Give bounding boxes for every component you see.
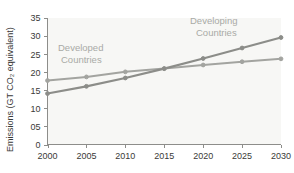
y-tick-label: 30 (30, 31, 40, 41)
data-point-marker (46, 79, 50, 83)
data-point-marker (162, 67, 166, 71)
annotation-developing-line1: Developing (190, 15, 238, 26)
plot-area-background (47, 18, 281, 144)
y-tick-label: 15 (30, 86, 40, 96)
x-tick-label: 2030 (271, 151, 291, 161)
data-point-marker (240, 46, 244, 50)
x-axis-ticks (49, 145, 282, 149)
x-tick-label: 2005 (76, 151, 96, 161)
x-tick-label: 2010 (115, 151, 135, 161)
data-point-marker (240, 60, 244, 64)
y-tick-label: 35 (30, 13, 40, 23)
data-point-marker (279, 36, 283, 40)
emissions-line-chart: Emissions (GT CO₂ equivalent) 0051015202… (0, 0, 294, 173)
annotation-developed-line1: Developed (58, 42, 103, 53)
chart-canvas: Emissions (GT CO₂ equivalent) 0051015202… (0, 0, 294, 173)
y-tick-label: 05 (30, 122, 40, 132)
y-axis-title: Emissions (GT CO₂ equivalent) (5, 27, 15, 152)
data-point-marker (201, 63, 205, 67)
x-tick-label: 2015 (154, 151, 174, 161)
data-point-marker (279, 57, 283, 61)
x-tick-label: 2020 (193, 151, 213, 161)
y-tick-label: 10 (30, 104, 40, 114)
y-axis-tick-labels: 005101520253035 (30, 13, 40, 150)
annotation-developing-line2: Countries (196, 27, 237, 38)
annotation-developed-line2: Countries (61, 54, 102, 65)
y-tick-label: 0 (35, 140, 40, 150)
x-tick-label: 2000 (37, 151, 57, 161)
x-axis-tick-labels: 2000200520102015202020252030 (37, 151, 291, 161)
x-tick-label: 2025 (232, 151, 252, 161)
data-point-marker (46, 92, 50, 96)
data-point-marker (201, 57, 205, 61)
data-point-marker (123, 76, 127, 80)
data-point-marker (85, 75, 89, 79)
y-tick-label: 20 (30, 68, 40, 78)
y-tick-label: 25 (30, 50, 40, 60)
data-point-marker (123, 70, 127, 74)
data-point-marker (85, 84, 89, 88)
